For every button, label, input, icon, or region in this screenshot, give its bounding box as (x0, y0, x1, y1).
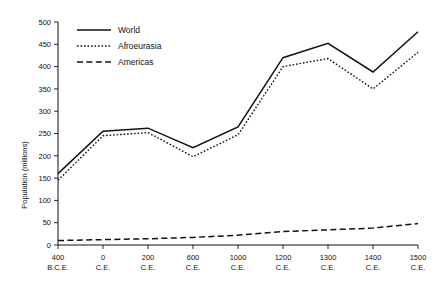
y-tick-label: 100 (38, 196, 51, 205)
x-tick-label-era: C.E. (186, 263, 201, 272)
series-line-americas (58, 224, 418, 241)
y-axis-title: Population (millions) (20, 141, 29, 209)
x-tick-label-era: C.E. (96, 263, 111, 272)
legend-label-world: World (118, 25, 140, 35)
chart-legend: WorldAfroeurasiaAmericas (77, 25, 162, 67)
x-tick-label: 1000 (230, 253, 247, 262)
x-tick-label-era: C.E. (411, 263, 426, 272)
x-tick-label: 0 (101, 253, 105, 262)
x-tick-label-era: C.E. (276, 263, 291, 272)
y-tick-label: 50 (43, 218, 51, 227)
y-tick-group: 050100150200250300350400450500 (38, 18, 58, 250)
x-tick-label-era: B.C.E. (47, 263, 69, 272)
y-tick-label: 500 (38, 18, 51, 27)
legend-label-afroeurasia: Afroeurasia (118, 41, 162, 51)
x-tick-label: 200 (142, 253, 155, 262)
x-tick-label-era: C.E. (231, 263, 246, 272)
y-tick-label: 450 (38, 40, 51, 49)
x-tick-label: 1400 (365, 253, 382, 262)
y-tick-label: 250 (38, 129, 51, 138)
x-tick-group: 400B.C.E.0C.E.200C.E.600C.E.1000C.E.1200… (47, 245, 426, 272)
y-tick-label: 350 (38, 85, 51, 94)
x-tick-label: 400 (52, 253, 65, 262)
y-tick-label: 0 (47, 241, 51, 250)
x-tick-label: 1300 (320, 253, 337, 262)
chart-canvas: Population (millions) 050100150200250300… (0, 0, 436, 290)
y-tick-label: 200 (38, 152, 51, 161)
legend-label-americas: Americas (118, 57, 153, 67)
x-tick-label: 1200 (275, 253, 292, 262)
x-tick-label-era: C.E. (141, 263, 156, 272)
y-tick-label: 300 (38, 107, 51, 116)
y-tick-label: 150 (38, 174, 51, 183)
x-tick-label: 600 (187, 253, 200, 262)
series-line-world (58, 32, 418, 174)
y-tick-label: 400 (38, 62, 51, 71)
x-tick-label-era: C.E. (366, 263, 381, 272)
population-line-chart: Population (millions) 050100150200250300… (0, 0, 436, 290)
x-tick-label: 1500 (410, 253, 427, 262)
series-group (58, 32, 418, 241)
x-tick-label-era: C.E. (321, 263, 336, 272)
series-line-afroeurasia (58, 52, 418, 180)
